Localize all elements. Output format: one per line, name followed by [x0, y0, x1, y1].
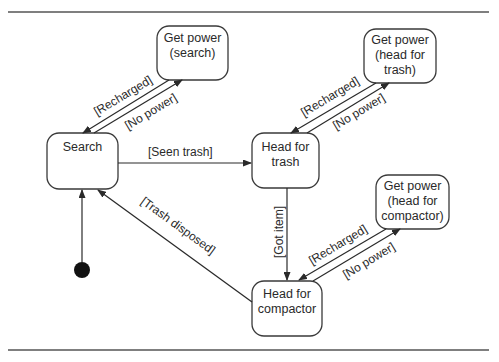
initial-state-dot — [74, 262, 90, 278]
state-label: (head for — [387, 194, 437, 208]
guard-label: [Got item] — [272, 206, 286, 258]
state-diagram: Search Get power (search) Head for trash… — [0, 0, 499, 362]
state-label: (search) — [170, 46, 216, 60]
state-label: (head for — [375, 48, 425, 62]
state-label: Search — [63, 140, 103, 154]
state-head-for-compactor: Head for compactor — [252, 281, 322, 336]
state-label: Head for — [262, 140, 310, 154]
state-label: compactor) — [381, 209, 444, 223]
state-head-for-trash: Head for trash — [252, 133, 319, 188]
state-search: Search — [47, 133, 118, 189]
state-label: Get power — [164, 31, 222, 45]
state-label: compactor — [258, 302, 316, 316]
state-label: Get power — [384, 179, 442, 193]
state-get-power-compactor: Get power (head for compactor) — [376, 175, 449, 229]
state-label: Head for — [263, 287, 311, 301]
edge-trash-disposed — [98, 190, 252, 302]
state-get-power-search: Get power (search) — [157, 26, 228, 80]
state-label: Get power — [371, 33, 429, 47]
state-label: trash) — [384, 63, 416, 77]
state-get-power-trash: Get power (head for trash) — [364, 29, 436, 83]
state-label: trash — [272, 155, 300, 169]
guard-label: [Seen trash] — [148, 145, 213, 159]
